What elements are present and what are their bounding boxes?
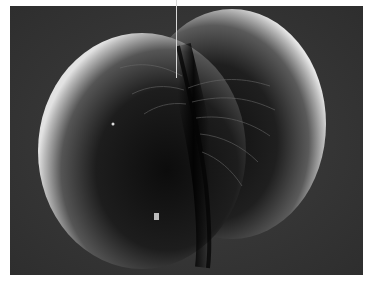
micrograph-image — [10, 6, 363, 275]
label-pointer-line — [176, 0, 177, 78]
